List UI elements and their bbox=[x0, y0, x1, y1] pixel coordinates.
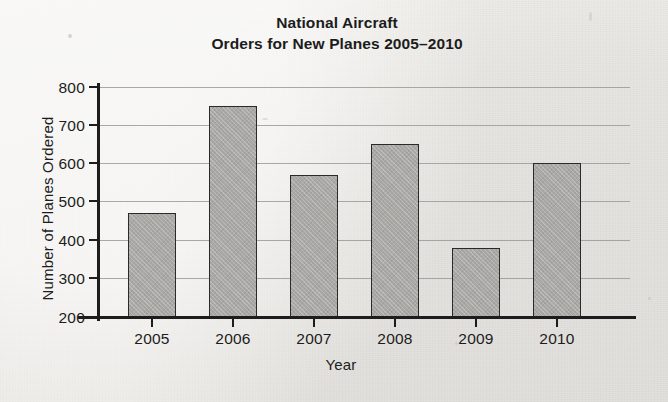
bar-2009 bbox=[452, 248, 500, 317]
x-axis-tick-label-2005: 2005 bbox=[117, 330, 187, 348]
gridline bbox=[98, 125, 630, 126]
bar-2005 bbox=[128, 213, 176, 317]
x-axis-tick-label-2008: 2008 bbox=[360, 330, 430, 348]
bar-chart: Number of Planes Ordered 800 700 600 500… bbox=[0, 0, 668, 402]
gridline bbox=[98, 87, 630, 88]
x-axis-tick bbox=[151, 318, 153, 327]
x-axis-tick-label-2010: 2010 bbox=[522, 330, 592, 348]
x-axis-line bbox=[78, 316, 636, 319]
x-axis-tick bbox=[394, 318, 396, 327]
x-axis-tick-label-2006: 2006 bbox=[198, 330, 268, 348]
x-axis-label-wrap: Year bbox=[0, 356, 668, 373]
x-axis-tick-label-2009: 2009 bbox=[441, 330, 511, 348]
y-axis-tick-label: 700 bbox=[33, 117, 85, 135]
y-axis-tick-label: 300 bbox=[33, 270, 85, 288]
y-axis-tick-label: 500 bbox=[33, 193, 85, 211]
y-axis-tick-label: 600 bbox=[33, 155, 85, 173]
x-axis-label: Year bbox=[325, 356, 356, 373]
y-axis-tick-label: 800 bbox=[33, 79, 85, 97]
x-axis-tick-label-2007: 2007 bbox=[279, 330, 349, 348]
bar-2008 bbox=[371, 144, 419, 317]
x-axis-tick bbox=[475, 318, 477, 327]
y-axis-tick-label: 400 bbox=[33, 232, 85, 250]
x-axis-tick bbox=[232, 318, 234, 327]
y-axis-line bbox=[97, 83, 100, 321]
bar-2007 bbox=[290, 175, 338, 317]
x-axis-tick bbox=[313, 318, 315, 327]
bar-2010 bbox=[533, 163, 581, 317]
bar-2006 bbox=[209, 106, 257, 317]
x-axis-tick bbox=[556, 318, 558, 327]
